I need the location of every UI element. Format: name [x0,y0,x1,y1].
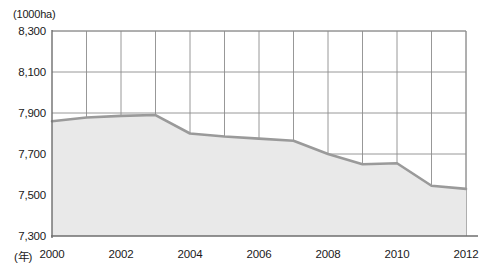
x-axis-tick-label: 2002 [109,248,134,260]
x-axis-tick-label: 2000 [40,248,65,260]
x-axis-tick-label: 2008 [316,248,341,260]
chart-container: (1000ha) 7,3007,5007,7007,9008,1008,300 … [0,0,483,275]
x-axis-tick-label: 2010 [385,248,410,260]
x-axis-tick-label: 2004 [178,248,203,260]
chart-plot-svg [0,0,483,275]
x-axis-tick-label: 2006 [247,248,272,260]
x-axis-tick-label: 2012 [454,248,479,260]
x-axis-unit-label: (年) [14,248,32,264]
